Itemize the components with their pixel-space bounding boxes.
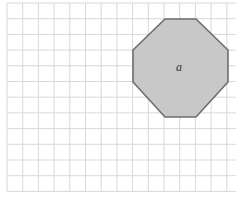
grid-diagram — [0, 0, 236, 201]
shape-label: a — [176, 60, 182, 75]
